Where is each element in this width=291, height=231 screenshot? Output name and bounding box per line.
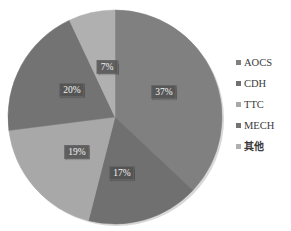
legend-item-ttc[interactable]: TTC [236,94,291,115]
legend-item-mech[interactable]: MECH [236,115,291,136]
pie-chart-figure: 37%17%19%20%7% AOCSCDHTTCMECH其他 [0,0,291,231]
legend-item-cdh[interactable]: CDH [236,73,291,94]
legend-item-label: AOCS [244,52,272,73]
legend-item-aocs[interactable]: AOCS [236,52,291,73]
legend-item-label: 其他 [244,136,264,157]
pie-data-label: 17% [109,166,134,180]
legend-swatch-icon [236,81,241,86]
pie-data-label: 20% [59,83,84,97]
pie-data-label: 19% [64,145,89,159]
legend-item-label: CDH [244,73,266,94]
chart-legend: AOCSCDHTTCMECH其他 [236,52,291,157]
pie-data-label: 7% [97,60,118,74]
pie-data-label: 37% [151,85,176,99]
pie-slice-group [8,10,222,224]
pie-svg [0,0,232,231]
legend-item-其他[interactable]: 其他 [236,136,291,157]
legend-swatch-icon [236,144,241,149]
legend-item-label: TTC [244,94,264,115]
legend-swatch-icon [236,123,241,128]
legend-swatch-icon [236,60,241,65]
legend-swatch-icon [236,102,241,107]
legend-item-label: MECH [244,115,274,136]
pie-plot-area: 37%17%19%20%7% [0,0,232,231]
